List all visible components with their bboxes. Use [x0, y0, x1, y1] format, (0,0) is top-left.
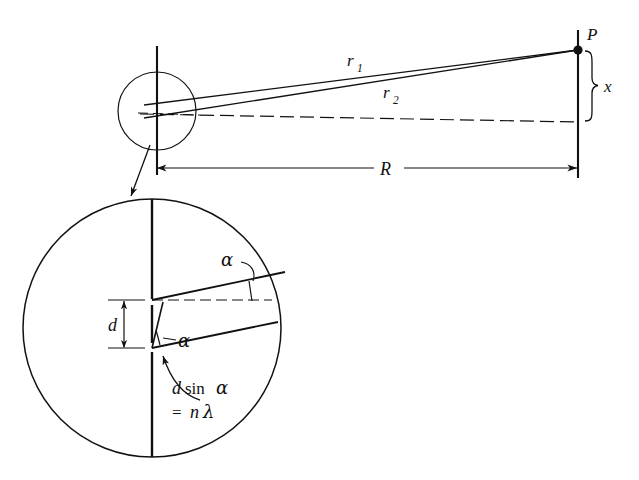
alpha-arc-lower [156, 330, 160, 345]
label-ray-r2-subscript: 2 [393, 94, 399, 106]
magnified-detail-group: α α d d sin α = n λ [23, 199, 285, 457]
label-d-separation: d [108, 315, 118, 335]
x-brace-path [585, 51, 598, 121]
label-pathdiff-equals: = [172, 403, 182, 422]
main-diagram-group: P r 1 r 2 x R [118, 25, 612, 196]
path-difference-segment [152, 302, 163, 348]
ray-r1-line [144, 50, 578, 105]
alpha-lower-leader [163, 338, 176, 340]
label-pathdiff-sin: sin [185, 379, 205, 398]
alpha-perpendicular-tick [249, 281, 252, 301]
label-point-p: P [586, 25, 597, 44]
label-ray-r1: r [347, 51, 354, 70]
diagram-canvas: P r 1 r 2 x R [0, 0, 639, 480]
label-x: x [603, 77, 612, 96]
label-pathdiff-alpha: α [216, 377, 228, 398]
label-pathdiff-d: d [172, 378, 182, 398]
point-p-dot [573, 45, 582, 54]
ray-r2-line [144, 50, 578, 118]
label-pathdiff-n: n [190, 402, 199, 422]
label-alpha-upper: α [221, 249, 233, 270]
optical-axis-dashed [140, 114, 578, 122]
label-pathdiff-lambda: λ [202, 401, 214, 422]
label-r-distance: R [379, 159, 391, 179]
wavefront-upper-line [152, 272, 285, 300]
label-ray-r1-subscript: 1 [357, 62, 363, 74]
label-ray-r2: r [383, 83, 390, 102]
magnifier-pointer-arrow [131, 145, 150, 196]
wavefront-lower-line [152, 322, 278, 348]
physics-diagram-figure: P r 1 r 2 x R [0, 0, 639, 480]
label-alpha-lower: α [178, 330, 190, 351]
